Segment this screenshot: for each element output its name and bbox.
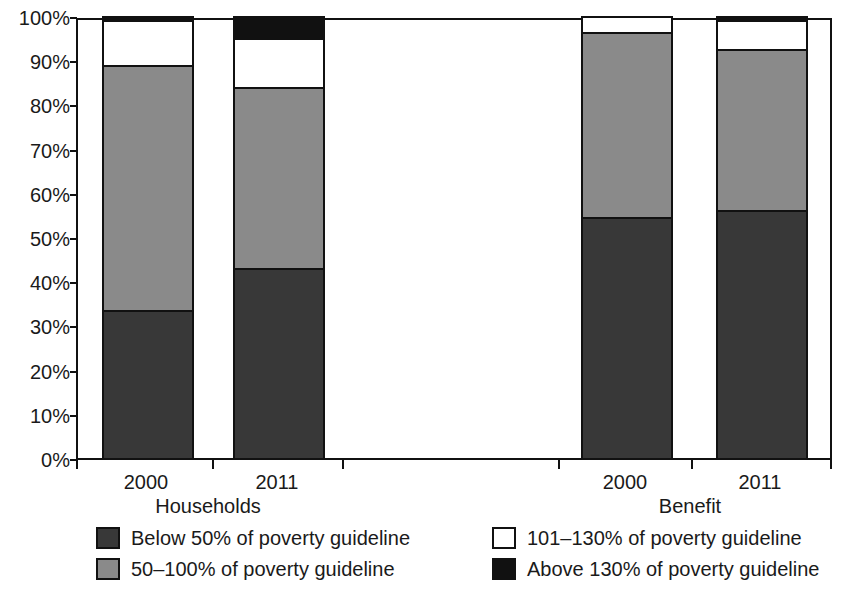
x-axis-tick-mark xyxy=(76,460,78,469)
legend-label: 50–100% of poverty guideline xyxy=(131,558,395,580)
bar-benefit-2000 xyxy=(581,16,673,458)
bar-segment xyxy=(102,310,194,458)
y-axis-tick-label: 50% xyxy=(2,229,70,249)
x-axis-group-label: Households xyxy=(118,494,298,518)
bar-segment xyxy=(102,20,194,64)
y-axis-tick-label: 10% xyxy=(2,406,70,426)
legend-item: 101–130% of poverty guideline xyxy=(492,527,802,549)
x-axis-tick-mark xyxy=(691,460,693,469)
bar-segment xyxy=(581,16,673,31)
bar-benefit-2011 xyxy=(716,16,808,458)
y-axis-tick-label: 70% xyxy=(2,141,70,161)
x-axis-tick-mark xyxy=(558,460,560,469)
stacked-bar-chart: 0%10%20%30%40%50%60%70%80%90%100% 200020… xyxy=(0,0,851,607)
legend-swatch-dark xyxy=(96,527,120,549)
legend-swatch-black xyxy=(492,558,516,580)
bar-segment xyxy=(233,16,325,38)
bar-segment xyxy=(581,217,673,458)
x-axis-tick-label: 2000 xyxy=(86,470,206,494)
y-axis-tick-label: 30% xyxy=(2,317,70,337)
legend-label: Below 50% of poverty guideline xyxy=(131,527,410,549)
legend-label: Above 130% of poverty guideline xyxy=(527,558,819,580)
bar-households-2000 xyxy=(102,16,194,458)
legend-label: 101–130% of poverty guideline xyxy=(527,527,802,549)
x-axis-tick-mark xyxy=(212,460,214,469)
plot-area xyxy=(76,18,832,460)
y-axis-tick-label: 60% xyxy=(2,185,70,205)
chart-legend: Below 50% of poverty guideline101–130% o… xyxy=(96,527,796,589)
bars-layer xyxy=(78,20,830,458)
legend-swatch-gray xyxy=(96,558,120,580)
x-axis-group-label: Benefit xyxy=(600,494,780,518)
x-axis-tick-label: 2011 xyxy=(700,470,820,494)
legend-item: Above 130% of poverty guideline xyxy=(492,558,819,580)
bar-segment xyxy=(716,49,808,210)
y-axis-tick-label: 20% xyxy=(2,362,70,382)
x-axis-tick-mark xyxy=(342,460,344,469)
legend-item: Below 50% of poverty guideline xyxy=(96,527,410,549)
y-axis-tick-label: 90% xyxy=(2,52,70,72)
x-axis-tick-mark xyxy=(830,460,832,469)
legend-swatch-white xyxy=(492,527,516,549)
bar-segment xyxy=(233,38,325,87)
bar-segment xyxy=(716,210,808,458)
bar-segment xyxy=(233,268,325,458)
y-axis-tick-label: 0% xyxy=(2,450,70,470)
y-axis-tick-label: 40% xyxy=(2,273,70,293)
bar-segment xyxy=(716,20,808,49)
y-axis-tick-label: 80% xyxy=(2,96,70,116)
x-axis-tick-label: 2000 xyxy=(565,470,685,494)
x-axis-tick-label: 2011 xyxy=(217,470,337,494)
bar-segment xyxy=(581,32,673,218)
y-axis-labels: 0%10%20%30%40%50%60%70%80%90%100% xyxy=(0,18,70,460)
bar-segment xyxy=(102,65,194,310)
bar-households-2011 xyxy=(233,16,325,458)
legend-item: 50–100% of poverty guideline xyxy=(96,558,395,580)
bar-segment xyxy=(233,87,325,268)
y-axis-tick-label: 100% xyxy=(2,8,70,28)
